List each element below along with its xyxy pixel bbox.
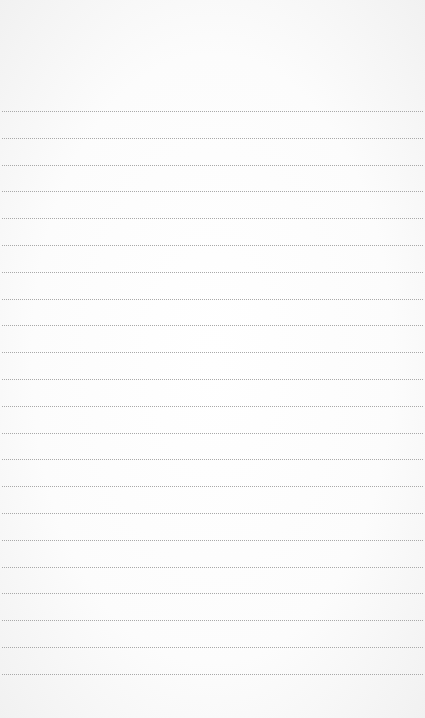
ruled-line (2, 540, 423, 541)
ruled-line (2, 620, 423, 621)
ruled-line (2, 352, 423, 353)
ruled-line (2, 325, 423, 326)
ruled-line (2, 513, 423, 514)
ruled-line (2, 138, 423, 139)
page-header-area (0, 0, 425, 100)
ruled-line (2, 218, 423, 219)
ruled-line (2, 111, 423, 112)
ruled-line (2, 406, 423, 407)
ruled-line (2, 299, 423, 300)
ruled-line (2, 245, 423, 246)
ruled-line (2, 379, 423, 380)
ruled-line (2, 459, 423, 460)
ruled-line (2, 647, 423, 648)
ruled-line (2, 191, 423, 192)
ruled-line (2, 567, 423, 568)
ruled-line (2, 165, 423, 166)
ruled-line (2, 486, 423, 487)
ruled-line (2, 593, 423, 594)
ruled-line (2, 674, 423, 675)
ruled-line (2, 433, 423, 434)
notepad-page[interactable] (0, 0, 425, 718)
ruled-line (2, 272, 423, 273)
